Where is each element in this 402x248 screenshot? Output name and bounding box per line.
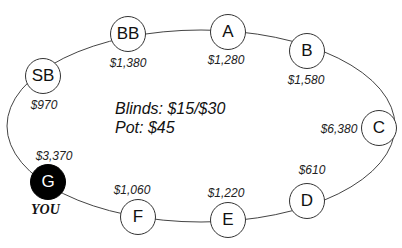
seat-bb: BB [110, 16, 146, 52]
blinds-label: Blinds: $15/$30 [115, 99, 225, 118]
stack-sb: $970 [31, 98, 58, 112]
stack-c: $6,380 [321, 122, 358, 136]
stack-g: $3,370 [36, 149, 73, 163]
seat-b: B [289, 33, 325, 69]
stack-e: $1,220 [208, 186, 245, 200]
pot-label: Pot: $45 [115, 118, 225, 137]
stack-b: $1,580 [288, 73, 325, 87]
table-info: Blinds: $15/$30 Pot: $45 [115, 99, 225, 137]
stack-bb: $1,380 [110, 56, 147, 70]
seat-f: F [120, 199, 156, 235]
stack-f: $1,060 [114, 183, 151, 197]
seat-e: E [210, 202, 246, 238]
seat-sb: SB [25, 58, 61, 94]
seat-a: A [210, 14, 246, 50]
seat-d: D [289, 183, 325, 219]
seat-g-hero: G [30, 164, 66, 200]
stack-a: $1,280 [208, 53, 245, 67]
seat-c: C [361, 110, 397, 146]
stack-d: $610 [299, 163, 326, 177]
you-label: YOU [31, 202, 60, 218]
